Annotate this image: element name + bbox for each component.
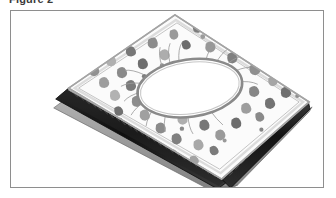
slab-illustration xyxy=(11,11,323,187)
figure-caption: Figure 2 xyxy=(9,0,53,5)
figure-border xyxy=(10,10,324,188)
figure-root: Figure 2 xyxy=(0,0,336,198)
